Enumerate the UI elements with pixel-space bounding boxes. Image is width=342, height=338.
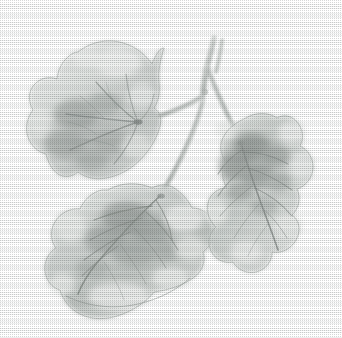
artwork-canvas: Three Leaves on a Forked Stem halftone s… [0,0,342,338]
petiole-junction-right [237,140,244,145]
stem-fork-node [202,89,208,95]
petiole-junction-lower-left [157,193,165,198]
petiole-junction-upper-left [134,119,143,125]
leaf-illustration [0,0,342,338]
